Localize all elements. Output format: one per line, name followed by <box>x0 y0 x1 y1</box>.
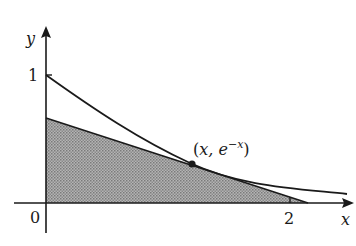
point-label-main: x, e <box>199 140 228 159</box>
point-label-close: ) <box>243 140 249 159</box>
point-label: (x, e−x) <box>193 138 250 159</box>
y-axis-label: y <box>25 29 36 48</box>
x-axis-label: x <box>341 210 350 229</box>
diagram-canvas: y 1 0 2 x (x, e−x) <box>0 0 356 246</box>
x-tick-label-2: 2 <box>284 209 294 228</box>
origin-label: 0 <box>30 208 40 227</box>
tangent-point-marker <box>188 160 195 167</box>
y-tick-label-1: 1 <box>28 66 38 85</box>
point-label-exponent: −x <box>228 138 244 151</box>
